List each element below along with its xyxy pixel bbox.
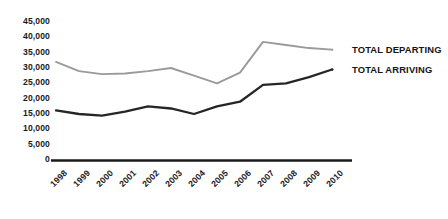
legend-label-total-arriving: TOTAL ARRIVING bbox=[352, 64, 432, 75]
x-axis-tick-labels: 1998199920002001200220032004200520062007… bbox=[0, 0, 448, 219]
legend-label-total-departing: TOTAL DEPARTING bbox=[352, 44, 442, 55]
line-chart: 05,00010,00015,00020,00025,00030,00035,0… bbox=[0, 0, 448, 219]
